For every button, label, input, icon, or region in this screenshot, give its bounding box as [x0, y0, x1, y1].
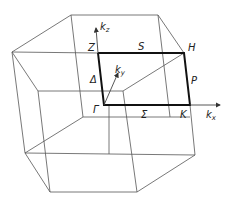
- kz-label: kz: [100, 21, 110, 34]
- kz-axis: [96, 28, 98, 53]
- brillouin-zone-diagram: kz ky kx Z S H Δ P Γ Σ K: [0, 0, 231, 202]
- symmetry-path: [98, 53, 190, 105]
- point-S: S: [138, 41, 145, 52]
- point-Delta: Δ: [89, 74, 97, 85]
- kx-label: kx: [206, 109, 217, 122]
- point-P: P: [191, 75, 198, 86]
- point-K: K: [180, 109, 188, 120]
- ky-axis: [104, 73, 118, 105]
- point-H: H: [188, 42, 196, 53]
- point-Sigma: Σ: [141, 109, 148, 120]
- point-Z: Z: [87, 42, 96, 53]
- point-Gamma: Γ: [93, 104, 100, 115]
